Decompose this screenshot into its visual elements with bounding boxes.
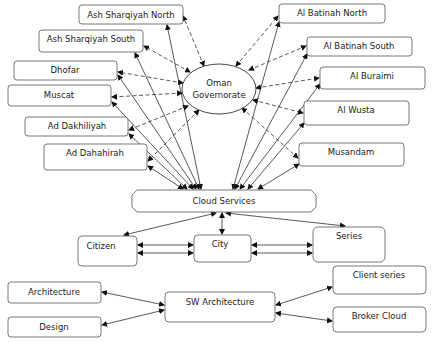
edge-oman-to-dhofar bbox=[118, 72, 183, 83]
edge-sw-architecture-to-client-series bbox=[276, 287, 332, 305]
node-label: Al Batinah North bbox=[297, 8, 367, 18]
node-ash-sharqiyah-south[interactable]: Ash Sharqiyah South bbox=[39, 30, 143, 52]
edge-cloud-to-citizen bbox=[124, 213, 216, 235]
edges-layer bbox=[102, 16, 345, 325]
node-al-wusta[interactable]: Al Wusta bbox=[304, 101, 409, 125]
node-ad-dahahirah[interactable]: Ad Dahahirah bbox=[44, 144, 147, 170]
node-muscat[interactable]: Muscat bbox=[8, 85, 111, 106]
node-city[interactable]: City bbox=[194, 235, 251, 262]
edge-oman-to-ash-sharqiyah-south bbox=[144, 46, 190, 72]
edge-oman-to-ad-dakhiliyah bbox=[129, 106, 188, 130]
node-musandam[interactable]: Musandam bbox=[299, 143, 404, 166]
node-label: Ad Dahahirah bbox=[66, 148, 124, 158]
node-design[interactable]: Design bbox=[8, 317, 101, 337]
edge-oman-to-ash-sharqiyah-north bbox=[183, 16, 204, 66]
edge-sw-architecture-to-architecture bbox=[102, 292, 164, 305]
node-label: Design bbox=[39, 322, 68, 332]
edge-oman-to-muscat bbox=[112, 93, 182, 97]
node-label-line-2: Governorate bbox=[192, 90, 245, 100]
node-label: Ad Dakhiliyah bbox=[48, 121, 107, 131]
node-ad-dakhiliyah[interactable]: Ad Dakhiliyah bbox=[25, 117, 128, 136]
node-label: Al Buraimi bbox=[350, 71, 394, 81]
node-cloud-services[interactable]: Cloud Services bbox=[132, 190, 316, 212]
node-label: Client series bbox=[353, 270, 406, 280]
node-dhofar[interactable]: Dhofar bbox=[14, 61, 117, 80]
edge-cloud-to-musandam bbox=[258, 164, 299, 189]
node-label: Citizen bbox=[86, 241, 115, 251]
node-ash-sharqiyah-north[interactable]: Ash Sharqiyah North bbox=[79, 5, 183, 24]
node-label: City bbox=[212, 239, 229, 249]
node-label: Ash Sharqiyah South bbox=[47, 34, 135, 44]
edge-cloud-to-ad-dahahirah bbox=[148, 166, 183, 189]
node-oman-governorate[interactable]: Oman Governorate bbox=[182, 64, 256, 114]
node-label: Cloud Services bbox=[193, 196, 256, 206]
edge-oman-to-al-wusta bbox=[253, 100, 303, 113]
oman-cloud-diagram: Ash Sharqiyah North Ash Sharqiyah South … bbox=[0, 0, 437, 342]
edge-oman-to-al-buraimi bbox=[256, 78, 319, 88]
node-client-series[interactable]: Client series bbox=[333, 266, 426, 294]
node-al-batinah-north[interactable]: Al Batinah North bbox=[279, 4, 385, 23]
edge-sw-architecture-to-broker-cloud bbox=[276, 313, 332, 321]
edge-sw-architecture-to-design bbox=[102, 310, 164, 325]
node-al-buraimi[interactable]: Al Buraimi bbox=[320, 67, 425, 89]
node-label: SW Architecture bbox=[186, 297, 255, 307]
node-label: Architecture bbox=[28, 287, 80, 297]
node-sw-architecture[interactable]: SW Architecture bbox=[165, 292, 275, 322]
node-label: Series bbox=[336, 231, 363, 241]
node-architecture[interactable]: Architecture bbox=[8, 282, 101, 303]
node-label: Dhofar bbox=[51, 65, 80, 75]
node-label: Ash Sharqiyah North bbox=[87, 10, 175, 20]
node-broker-cloud[interactable]: Broker Cloud bbox=[333, 307, 426, 332]
node-label: Al Batinah South bbox=[323, 41, 394, 51]
node-label-line-1: Oman bbox=[206, 78, 232, 88]
edge-oman-to-al-batinah-south bbox=[249, 46, 306, 70]
node-al-batinah-south[interactable]: Al Batinah South bbox=[307, 37, 412, 56]
node-label: Muscat bbox=[44, 90, 75, 100]
edge-cloud-to-series bbox=[226, 213, 345, 226]
node-label: Al Wusta bbox=[337, 105, 374, 115]
node-label: Musandam bbox=[328, 147, 375, 157]
edge-oman-to-musandam bbox=[242, 108, 298, 158]
node-citizen[interactable]: Citizen bbox=[78, 236, 137, 266]
edge-oman-to-al-batinah-north bbox=[236, 16, 278, 66]
node-series[interactable]: Series bbox=[313, 227, 385, 262]
node-label: Broker Cloud bbox=[352, 311, 407, 321]
